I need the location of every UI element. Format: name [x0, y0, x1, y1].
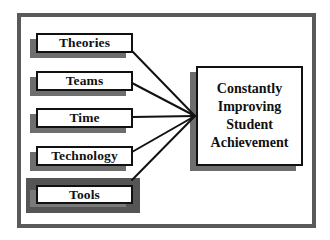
input-label: Tools	[69, 188, 100, 202]
goal-line: Improving	[218, 98, 282, 116]
goal-box: Constantly Improving Student Achievement	[196, 66, 303, 166]
input-box-tools: Tools	[36, 185, 133, 204]
goal-line: Constantly	[217, 80, 282, 98]
input-box-time: Time	[36, 108, 133, 128]
input-label: Teams	[66, 74, 104, 88]
input-label: Theories	[59, 36, 110, 50]
connector-teams	[132, 83, 195, 116]
input-label: Technology	[51, 149, 118, 163]
goal-line: Student	[226, 116, 273, 134]
input-box-technology: Technology	[36, 146, 133, 166]
goal-line: Achievement	[211, 134, 289, 152]
input-label: Time	[69, 111, 99, 125]
connector-tools	[132, 116, 195, 180]
connector-theories	[132, 51, 195, 116]
input-box-teams: Teams	[36, 71, 133, 91]
input-box-theories: Theories	[36, 33, 133, 53]
connector-time	[132, 116, 195, 117]
